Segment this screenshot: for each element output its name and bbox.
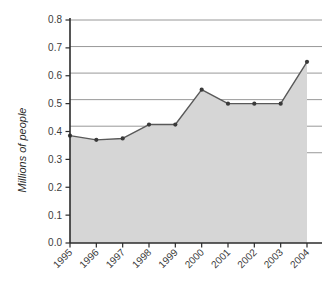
data-point: 2001: 0.5 <box>226 102 230 106</box>
x-axis-tick-label: 1997 <box>104 246 128 270</box>
area-chart: 1995: 0.3851996: 0.371997: 0.3751998: 0.… <box>0 0 332 294</box>
y-axis-tick-label: 0.8 <box>48 14 62 25</box>
data-point: 2002: 0.5 <box>252 102 256 106</box>
x-axis-tick-label: 1999 <box>156 246 180 270</box>
plot-area: 1995: 0.3851996: 0.371997: 0.3751998: 0.… <box>68 60 309 243</box>
data-point: 2000: 0.55 <box>200 88 204 92</box>
y-axis-title: Millions of people <box>16 108 28 193</box>
x-axis-tick-label: 2000 <box>183 246 207 270</box>
y-axis-tick-label: 0.6 <box>48 70 62 81</box>
chart-container: 1995: 0.3851996: 0.371997: 0.3751998: 0.… <box>0 0 332 294</box>
y-axis-tick-label: 0.7 <box>48 42 62 53</box>
y-axis: 0.00.10.20.30.40.50.60.70.8 <box>48 14 70 248</box>
x-axis-tick-label: 2002 <box>235 246 259 270</box>
x-axis-tick-label: 2001 <box>209 246 233 270</box>
x-axis-tick-labels: 1995199619971998199920002001200220032004 <box>51 246 312 270</box>
y-axis-tick-label: 0.2 <box>48 182 62 193</box>
y-axis-tick-label: 0.5 <box>48 98 62 109</box>
data-point: 2003: 0.5 <box>279 102 283 106</box>
x-axis-tick-label: 1995 <box>51 246 75 270</box>
x-axis-tick-label: 2004 <box>288 246 312 270</box>
x-axis-tick-label: 2003 <box>262 246 286 270</box>
y-axis-tick-labels: 0.00.10.20.30.40.50.60.70.8 <box>48 14 62 248</box>
area-fill <box>70 62 307 243</box>
y-axis-tick-label: 0.3 <box>48 154 62 165</box>
x-axis: 1995199619971998199920002001200220032004 <box>51 243 322 270</box>
y-axis-tick-label: 0.1 <box>48 210 62 221</box>
data-point: 2004: 0.65 <box>305 60 309 64</box>
data-point: 1996: 0.37 <box>94 138 98 142</box>
data-point: 1998: 0.425 <box>147 122 151 126</box>
y-axis-tick-label: 0.4 <box>48 126 62 137</box>
y-axis-tick-label: 0.0 <box>48 237 62 248</box>
data-point: 1999: 0.425 <box>173 122 177 126</box>
x-axis-tick-label: 1998 <box>130 246 154 270</box>
x-axis-tick-label: 1996 <box>77 246 101 270</box>
data-point: 1997: 0.375 <box>121 136 125 140</box>
